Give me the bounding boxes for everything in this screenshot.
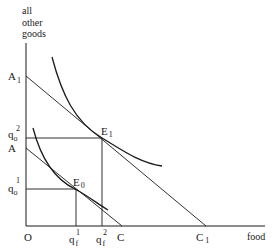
- y-axis-title-line-1: all: [22, 5, 32, 16]
- svg-text:2: 2: [103, 228, 107, 237]
- label-C1: C1: [196, 231, 209, 245]
- indifference-curve-lower: [33, 128, 108, 210]
- svg-text:E0: E0: [73, 176, 85, 190]
- label-A: A: [8, 142, 16, 154]
- svg-text:C1: C1: [196, 231, 209, 245]
- label-q-f-2: 2 qf: [96, 228, 107, 248]
- label-q-o-1: qo 1: [8, 176, 20, 197]
- label-origin: O: [24, 231, 32, 243]
- label-A1: A1: [8, 70, 21, 85]
- label-C: C: [117, 231, 124, 243]
- svg-text:C: C: [117, 231, 124, 243]
- label-E1: E1: [101, 125, 113, 139]
- label-q-o-2: qo 2: [8, 124, 20, 143]
- budget-line-A1-C1: [26, 76, 206, 226]
- svg-text:A1: A1: [8, 70, 21, 85]
- projection-E0: [26, 189, 76, 226]
- svg-text:1: 1: [76, 228, 80, 237]
- y-axis-title-line-2: other: [22, 17, 43, 28]
- economics-diagram: all other goods food A1 qo 2 A qo 1 O 1 …: [0, 0, 275, 251]
- label-q-f-1: 1 qf: [69, 228, 80, 248]
- svg-text:E1: E1: [101, 125, 113, 139]
- svg-text:2: 2: [16, 124, 20, 133]
- svg-text:1: 1: [16, 176, 20, 185]
- y-axis-title-line-3: goods: [22, 28, 46, 39]
- label-E0: E0: [73, 176, 85, 190]
- x-axis-title: food: [247, 231, 265, 242]
- svg-text:A: A: [8, 142, 16, 154]
